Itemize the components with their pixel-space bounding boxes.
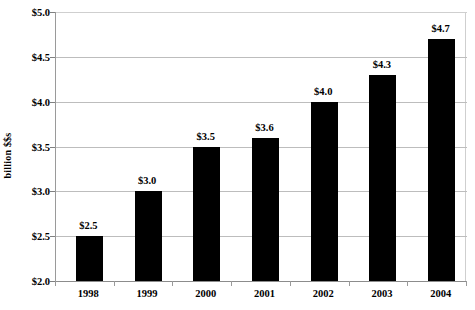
bar-value-label: $4.0 — [314, 86, 332, 97]
bar-value-label: $3.6 — [255, 122, 273, 133]
y-axis-title-label: billion $$s — [3, 132, 14, 178]
x-tick-label: 2000 — [195, 288, 216, 299]
y-tick-label: $3.5 — [14, 141, 50, 152]
bar-value-label: $3.0 — [138, 175, 156, 186]
bar — [428, 39, 455, 281]
x-tick-mark — [172, 281, 173, 286]
y-tick-label: $4.5 — [14, 51, 50, 62]
gridline — [56, 102, 467, 103]
x-tick-label: 2001 — [254, 288, 275, 299]
bar — [135, 191, 162, 281]
x-tick-mark — [407, 281, 408, 286]
y-axis-title: billion $$s — [0, 0, 16, 310]
y-tick-label: $4.0 — [14, 96, 50, 107]
bar-value-label: $4.3 — [373, 59, 391, 70]
plot-area — [55, 12, 466, 281]
x-tick-label: 2003 — [371, 288, 392, 299]
bar — [311, 102, 338, 281]
bar-value-label: $4.7 — [431, 23, 449, 34]
y-tick-label: $3.0 — [14, 186, 50, 197]
gridline — [56, 281, 467, 282]
x-tick-label: 1999 — [137, 288, 158, 299]
bar-value-label: $3.5 — [197, 131, 215, 142]
bar-chart: billion $$s $5.0$4.5$4.0$3.5$3.0$2.5$2.0… — [0, 0, 475, 310]
gridline — [56, 57, 467, 58]
x-tick-mark — [231, 281, 232, 286]
y-tick-label: $2.0 — [14, 276, 50, 287]
bar — [76, 236, 103, 281]
x-tick-label: 1998 — [78, 288, 99, 299]
bar — [252, 138, 279, 281]
bar — [193, 147, 220, 282]
y-tick-label: $5.0 — [14, 7, 50, 18]
x-tick-mark — [290, 281, 291, 286]
gridline — [56, 12, 467, 13]
x-tick-label: 2004 — [430, 288, 451, 299]
x-tick-label: 2002 — [313, 288, 334, 299]
x-tick-mark — [349, 281, 350, 286]
x-tick-mark — [114, 281, 115, 286]
bar-value-label: $2.5 — [79, 220, 97, 231]
x-tick-mark — [466, 281, 467, 286]
y-tick-label: $2.5 — [14, 231, 50, 242]
x-tick-mark — [55, 281, 56, 286]
bar — [369, 75, 396, 281]
